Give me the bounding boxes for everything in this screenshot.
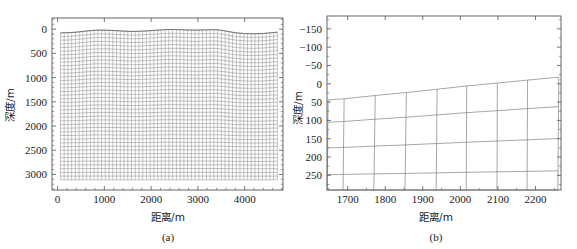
x-tick-label: 4000 — [234, 193, 257, 205]
y-tick-label: 3000 — [25, 168, 48, 180]
y-tick-label: −50 — [305, 59, 323, 71]
mesh-lines-b — [327, 77, 559, 190]
panel-caption-b: (b) — [430, 231, 443, 244]
y-tick-label: 500 — [31, 47, 48, 59]
x-tick-label: 1000 — [93, 193, 116, 205]
y-tick-label: 0 — [42, 23, 48, 35]
chart-b-canvas: 170018001900200021002200 −150−100−500501… — [290, 0, 577, 249]
y-tick-label: 2500 — [25, 144, 48, 156]
chart-panel-a: 01000200030004000 0500100015002000250030… — [0, 0, 290, 249]
x-tick-label: 1900 — [412, 193, 435, 205]
y-tick-label: 150 — [306, 133, 323, 145]
y-tick-label: 100 — [306, 114, 323, 126]
panel-caption-a: (a) — [162, 231, 175, 244]
chart-panel-b: 170018001900200021002200 −150−100−500501… — [290, 0, 577, 249]
x-tick-label: 2000 — [449, 193, 472, 205]
x-tick-label: 2200 — [524, 193, 547, 205]
y-tick-label: 50 — [311, 96, 323, 108]
x-axis-title-b: 距离/m — [419, 211, 453, 223]
x-tick-label: 3000 — [187, 193, 210, 205]
x-tick-labels-a: 01000200030004000 — [55, 193, 256, 205]
y-tick-label: 250 — [306, 169, 323, 181]
y-tick-label: 1500 — [25, 96, 48, 108]
x-tick-labels-b: 170018001900200021002200 — [337, 193, 547, 205]
y-tick-label: 2000 — [25, 120, 48, 132]
axes-frame-b — [327, 16, 561, 190]
y-tick-labels-a: 050010001500200025003000 — [25, 23, 48, 180]
y-tick-label: 200 — [306, 151, 323, 163]
y-tick-label: 1000 — [25, 72, 48, 84]
chart-a-canvas: 01000200030004000 0500100015002000250030… — [0, 0, 290, 249]
x-axis-title-a: 距离/m — [151, 211, 185, 223]
y-tick-label: 0 — [317, 78, 323, 90]
x-tick-label: 1800 — [374, 193, 397, 205]
x-tick-label: 2100 — [487, 193, 510, 205]
y-tick-label: −150 — [299, 23, 322, 35]
tick-marks-b — [327, 16, 561, 190]
y-axis-title-b: 深度/m — [292, 91, 304, 125]
x-tick-label: 2000 — [140, 193, 163, 205]
y-axis-title-a: 深度/m — [4, 88, 16, 122]
x-tick-label: 1700 — [337, 193, 360, 205]
mesh-lines-a — [60, 30, 277, 180]
x-tick-label: 0 — [55, 193, 61, 205]
y-tick-label: −100 — [299, 41, 322, 53]
figure-container: 01000200030004000 0500100015002000250030… — [0, 0, 577, 249]
